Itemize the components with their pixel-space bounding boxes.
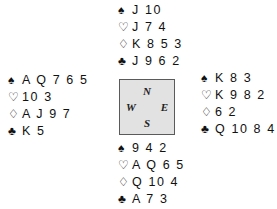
heart-icon: ♡ <box>118 157 132 174</box>
hand-west-spades: A Q 7 6 5 <box>22 72 89 89</box>
hand-west: ♠ A Q 7 6 5 ♡ 10 3 ♢ A J 9 7 ♣ K 5 <box>8 72 89 140</box>
hand-north-spades-row: ♠ J 10 <box>118 2 183 19</box>
hand-east-diamonds-row: ♢ 6 2 <box>201 104 276 121</box>
hand-south-clubs-row: ♣ A 7 3 <box>118 191 185 208</box>
hand-south-hearts-row: ♡ A Q 6 5 <box>118 157 185 174</box>
hand-north-hearts-row: ♡ J 7 4 <box>118 19 183 36</box>
hand-west-diamonds-row: ♢ A J 9 7 <box>8 106 89 123</box>
hand-west-hearts-row: ♡ 10 3 <box>8 89 89 106</box>
heart-icon: ♡ <box>201 87 215 104</box>
hand-west-clubs-row: ♣ K 5 <box>8 123 89 140</box>
hand-south-clubs: A 7 3 <box>132 191 169 208</box>
heart-icon: ♡ <box>118 19 132 36</box>
diamond-icon: ♢ <box>8 106 22 123</box>
spade-icon: ♠ <box>118 140 132 157</box>
compass-box: N W E S <box>119 79 175 135</box>
diamond-icon: ♢ <box>201 104 215 121</box>
hand-west-clubs: K 5 <box>22 123 46 140</box>
compass-label-south: S <box>144 117 150 129</box>
hand-south-spades: 9 4 2 <box>132 140 168 157</box>
heart-icon: ♡ <box>8 89 22 106</box>
compass-label-east: E <box>161 101 168 113</box>
hand-south-hearts: A Q 6 5 <box>132 157 185 174</box>
hand-north-clubs-row: ♣ J 9 6 2 <box>118 53 183 70</box>
hand-east-hearts: K 9 8 2 <box>215 87 266 104</box>
compass-label-north: N <box>143 85 151 97</box>
spade-icon: ♠ <box>201 70 215 87</box>
hand-west-spades-row: ♠ A Q 7 6 5 <box>8 72 89 89</box>
hand-north-diamonds: K 8 5 3 <box>132 36 183 53</box>
diamond-icon: ♢ <box>118 36 132 53</box>
hand-north: ♠ J 10 ♡ J 7 4 ♢ K 8 5 3 ♣ J 9 6 2 <box>118 2 183 70</box>
diamond-icon: ♢ <box>118 174 132 191</box>
hand-north-clubs: J 9 6 2 <box>132 53 181 70</box>
spade-icon: ♠ <box>118 2 132 19</box>
hand-north-hearts: J 7 4 <box>132 19 167 36</box>
hand-south-diamonds-row: ♢ Q 10 4 <box>118 174 185 191</box>
hand-east: ♠ K 8 3 ♡ K 9 8 2 ♢ 6 2 ♣ Q 10 8 4 <box>201 70 276 138</box>
hand-east-clubs-row: ♣ Q 10 8 4 <box>201 121 276 138</box>
hand-north-spades: J 10 <box>132 2 162 19</box>
hand-south: ♠ 9 4 2 ♡ A Q 6 5 ♢ Q 10 4 ♣ A 7 3 <box>118 140 185 208</box>
compass-label-west: W <box>126 101 136 113</box>
hand-east-spades: K 8 3 <box>215 70 252 87</box>
club-icon: ♣ <box>201 121 215 138</box>
hand-east-spades-row: ♠ K 8 3 <box>201 70 276 87</box>
hand-south-spades-row: ♠ 9 4 2 <box>118 140 185 157</box>
hand-west-hearts: 10 3 <box>22 89 53 106</box>
club-icon: ♣ <box>118 53 132 70</box>
bridge-deal-diagram: ♠ J 10 ♡ J 7 4 ♢ K 8 5 3 ♣ J 9 6 2 ♠ A Q… <box>0 0 277 209</box>
club-icon: ♣ <box>118 191 132 208</box>
spade-icon: ♠ <box>8 72 22 89</box>
hand-west-diamonds: A J 9 7 <box>22 106 71 123</box>
hand-east-diamonds: 6 2 <box>215 104 237 121</box>
hand-south-diamonds: Q 10 4 <box>132 174 179 191</box>
club-icon: ♣ <box>8 123 22 140</box>
hand-east-clubs: Q 10 8 4 <box>215 121 276 138</box>
hand-north-diamonds-row: ♢ K 8 5 3 <box>118 36 183 53</box>
hand-east-hearts-row: ♡ K 9 8 2 <box>201 87 276 104</box>
